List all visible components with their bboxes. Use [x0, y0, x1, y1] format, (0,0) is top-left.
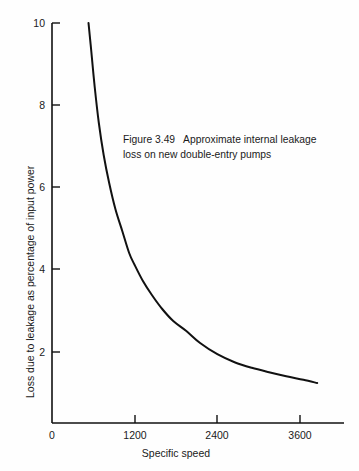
- x-axis-title: Specific speed: [52, 447, 300, 459]
- x-axis-ticks: [135, 415, 300, 423]
- figure-caption-line-1: Figure 3.49 Approximate internal leakage: [123, 133, 353, 148]
- figure-caption: Figure 3.49 Approximate internal leakage…: [123, 133, 353, 162]
- x-tick-label-2400: 2400: [193, 430, 241, 441]
- x-tick-label-3600: 3600: [276, 430, 324, 441]
- chart-plot-area: [0, 0, 359, 471]
- figure-container: 10 8 6 4 2 0 1200 2400 3600 Specific spe…: [0, 0, 359, 471]
- x-tick-label-0: 0: [38, 430, 66, 441]
- y-axis-ticks: [52, 23, 60, 352]
- figure-caption-line-2: loss on new double-entry pumps: [123, 148, 353, 163]
- data-series-curve: [89, 23, 318, 383]
- x-tick-label-1200: 1200: [111, 430, 159, 441]
- y-axis-title: Loss due to leakage as percentage of inp…: [24, 0, 36, 398]
